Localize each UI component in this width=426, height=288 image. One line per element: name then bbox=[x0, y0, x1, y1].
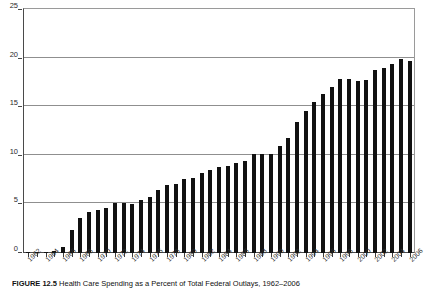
figure-caption-label: FIGURE 12.5 bbox=[12, 279, 57, 288]
y-tick-mark-5 bbox=[18, 203, 22, 204]
bar-2005 bbox=[399, 59, 403, 253]
bar-1989 bbox=[260, 154, 264, 253]
bar-1985 bbox=[226, 166, 230, 253]
figure-container: 0510152025 19621964196619681970197219741… bbox=[0, 0, 426, 288]
y-tick-mark-0 bbox=[18, 252, 22, 253]
bar-1982 bbox=[200, 173, 204, 253]
bar-1996 bbox=[321, 94, 325, 253]
bar-1980 bbox=[182, 179, 186, 253]
bar-1981 bbox=[191, 178, 195, 253]
bar-1993 bbox=[295, 122, 299, 253]
bar-1983 bbox=[208, 170, 212, 253]
bar-1978 bbox=[165, 185, 169, 253]
y-tick-mark-10 bbox=[18, 155, 22, 156]
y-tick-label-15: 15 bbox=[10, 99, 18, 107]
y-tick-mark-25 bbox=[18, 9, 22, 10]
bar-1994 bbox=[304, 111, 308, 253]
bar-1970 bbox=[96, 210, 100, 253]
figure-caption-body: Health Care Spending as a Percent of Tot… bbox=[59, 279, 300, 288]
bar-1975 bbox=[139, 200, 143, 253]
y-tick-mark-15 bbox=[18, 106, 22, 107]
bar-1972 bbox=[113, 203, 117, 253]
y-tick-label-10: 10 bbox=[10, 148, 18, 156]
bar-1999 bbox=[347, 79, 351, 253]
figure-caption: FIGURE 12.5 Health Care Spending as a Pe… bbox=[12, 279, 420, 288]
bar-2004 bbox=[390, 64, 394, 253]
y-tick-mark-20 bbox=[18, 58, 22, 59]
bar-1968 bbox=[78, 218, 82, 253]
bar-1984 bbox=[217, 167, 221, 253]
y-tick-label-25: 25 bbox=[10, 2, 18, 10]
bar-1974 bbox=[130, 204, 134, 253]
bar-1986 bbox=[234, 163, 238, 253]
bars-group bbox=[24, 9, 414, 253]
bar-1988 bbox=[252, 154, 256, 253]
bar-1992 bbox=[286, 138, 290, 253]
chart-plot-wrapper: 0510152025 19621964196619681970197219741… bbox=[0, 0, 426, 262]
bar-1987 bbox=[243, 161, 247, 253]
bar-2006 bbox=[408, 61, 412, 253]
bar-1997 bbox=[330, 87, 334, 253]
bar-2001 bbox=[364, 80, 368, 253]
bar-1976 bbox=[148, 197, 152, 253]
bar-2000 bbox=[356, 81, 360, 253]
bar-1995 bbox=[312, 102, 316, 253]
y-tick-label-20: 20 bbox=[10, 51, 18, 59]
bar-2002 bbox=[373, 70, 377, 253]
bar-1979 bbox=[174, 184, 178, 253]
bar-1998 bbox=[338, 79, 342, 253]
bar-1991 bbox=[278, 146, 282, 253]
bar-1990 bbox=[269, 154, 273, 253]
y-axis-labels: 0510152025 bbox=[0, 8, 23, 253]
bar-1977 bbox=[156, 190, 160, 253]
bar-2003 bbox=[382, 68, 386, 253]
